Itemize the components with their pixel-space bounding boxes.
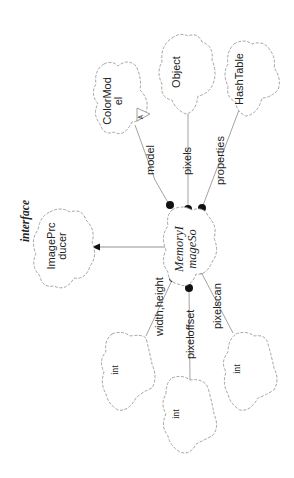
class-name-line2: mageSo <box>185 229 199 269</box>
role-label-pixeloffset: pixeloffset <box>184 310 196 359</box>
class-object[interactable]: Object <box>159 34 215 114</box>
aggregation-dot-icon <box>166 201 174 209</box>
class-name-line2: el <box>112 97 124 106</box>
class-int-pixelscan[interactable]: int <box>223 332 277 410</box>
implements-relationship[interactable] <box>92 244 168 251</box>
class-name-line1: MemoryI <box>172 225 186 273</box>
class-memoryimagesource[interactable]: MemoryI mageSo <box>163 207 216 286</box>
class-name: int <box>171 409 181 419</box>
cloud-shape <box>159 34 215 114</box>
class-colormodel[interactable]: ColorMod el A <box>93 62 150 134</box>
class-int-pixeloffset[interactable]: int <box>163 376 217 453</box>
class-int-width-height[interactable]: int <box>101 332 155 410</box>
class-name: Object <box>170 56 182 88</box>
role-label-properties: properties <box>214 136 226 185</box>
stereotype-label: interface <box>19 200 32 242</box>
class-name: HashTable <box>233 53 245 105</box>
class-hashtable[interactable]: HashTable <box>225 41 279 116</box>
class-imageproducer[interactable]: interface ImagePrc ducer <box>19 200 95 288</box>
role-label-width-height: width,height <box>153 277 165 337</box>
role-label-pixels: pixels <box>181 146 193 175</box>
class-name-line2: ducer <box>56 232 68 260</box>
class-diagram: ColorMod el A Object HashTable interface… <box>0 0 294 478</box>
role-label-model: model <box>144 145 156 175</box>
class-name: int <box>232 364 242 374</box>
adornment-letter: A <box>137 114 144 119</box>
role-label-pixelscan: pixelscan <box>211 283 223 329</box>
class-name: int <box>110 365 120 375</box>
